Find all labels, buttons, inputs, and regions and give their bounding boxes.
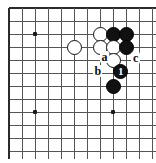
point-label-a[interactable]: a (99, 51, 110, 63)
point-label-c[interactable]: c (130, 52, 141, 64)
point-label-layer: acb (0, 0, 156, 163)
go-board-diagram: 1 acb (0, 0, 156, 163)
point-label-b[interactable]: b (92, 65, 103, 77)
